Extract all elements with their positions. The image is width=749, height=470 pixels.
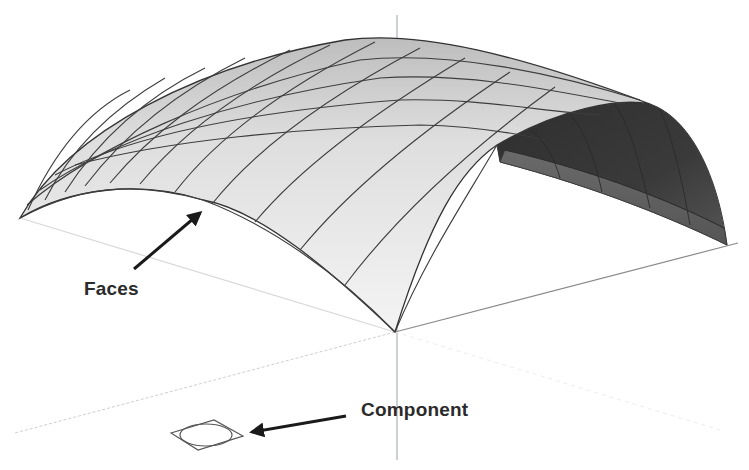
component-icon[interactable] [171, 420, 243, 450]
red-axis [395, 243, 738, 332]
faces-label: Faces [84, 278, 139, 300]
faces-arrow [134, 213, 200, 269]
component-arrow [252, 416, 346, 432]
component-circle-icon [180, 424, 232, 446]
component-label: Component [361, 399, 468, 421]
